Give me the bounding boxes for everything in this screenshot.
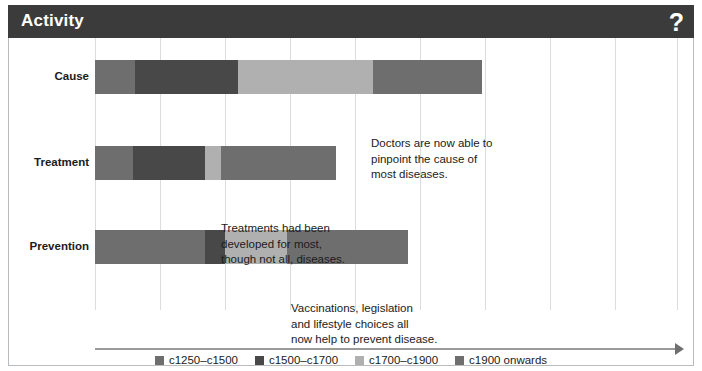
category-label-cause: Cause bbox=[9, 70, 89, 82]
screenshot-root: Activity ? CauseTreatmentPrevention Doct… bbox=[0, 0, 702, 371]
legend-item-1[interactable]: c1500–c1700 bbox=[255, 354, 338, 366]
bar-segment-treatment-0 bbox=[95, 146, 133, 180]
legend-item-3[interactable]: c1900 onwards bbox=[455, 354, 547, 366]
bar-prevention bbox=[9, 230, 693, 264]
bar-segment-cause-1 bbox=[135, 60, 238, 94]
bar-segment-cause-3 bbox=[373, 60, 482, 94]
legend-item-0[interactable]: c1250–c1500 bbox=[155, 354, 238, 366]
help-icon[interactable]: ? bbox=[669, 6, 684, 38]
panel-title: Activity bbox=[21, 11, 84, 31]
legend-label-3: c1900 onwards bbox=[469, 354, 547, 366]
chart-legend: c1250–c1500c1500–c1700c1700–c1900c1900 o… bbox=[9, 354, 693, 366]
bar-segment-cause-0 bbox=[95, 60, 135, 94]
annotation-prevention: Vaccinations, legislation and lifestyle … bbox=[291, 301, 437, 348]
legend-swatch-icon-3 bbox=[455, 356, 464, 365]
legend-swatch-icon-0 bbox=[155, 356, 164, 365]
bar-cause bbox=[9, 60, 693, 94]
chart-plot-area: CauseTreatmentPrevention Doctors are now… bbox=[9, 38, 693, 310]
bar-segment-treatment-2 bbox=[205, 146, 221, 180]
bar-segment-prevention-0 bbox=[95, 230, 205, 264]
panel-titlebar: Activity ? bbox=[8, 5, 694, 38]
x-axis-line bbox=[95, 348, 677, 350]
bar-treatment bbox=[9, 146, 693, 180]
category-label-prevention: Prevention bbox=[9, 240, 89, 252]
annotation-cause: Doctors are now able to pinpoint the cau… bbox=[371, 136, 492, 183]
legend-swatch-icon-1 bbox=[255, 356, 264, 365]
category-label-treatment: Treatment bbox=[9, 156, 89, 168]
annotation-treatment: Treatments had been developed for most, … bbox=[221, 221, 345, 268]
bar-segment-cause-2 bbox=[238, 60, 373, 94]
bar-segment-treatment-3 bbox=[221, 146, 336, 180]
legend-label-0: c1250–c1500 bbox=[169, 354, 238, 366]
legend-label-2: c1700–c1900 bbox=[369, 354, 438, 366]
legend-swatch-icon-2 bbox=[355, 356, 364, 365]
legend-label-1: c1500–c1700 bbox=[269, 354, 338, 366]
legend-item-2[interactable]: c1700–c1900 bbox=[355, 354, 438, 366]
bar-segment-treatment-1 bbox=[133, 146, 205, 180]
